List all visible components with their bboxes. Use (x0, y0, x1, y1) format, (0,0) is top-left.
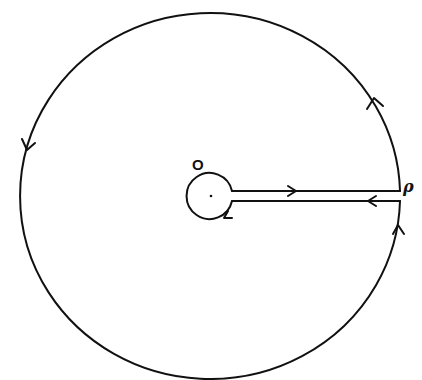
origin-label: O (192, 156, 204, 173)
keyhole-contour-diagram: O ρ (0, 0, 422, 380)
origin-dot (210, 195, 213, 198)
inner-circle-arc (187, 173, 232, 219)
arrow-outer-right-lower-icon (393, 225, 404, 234)
point-rho-label: ρ (402, 177, 414, 196)
